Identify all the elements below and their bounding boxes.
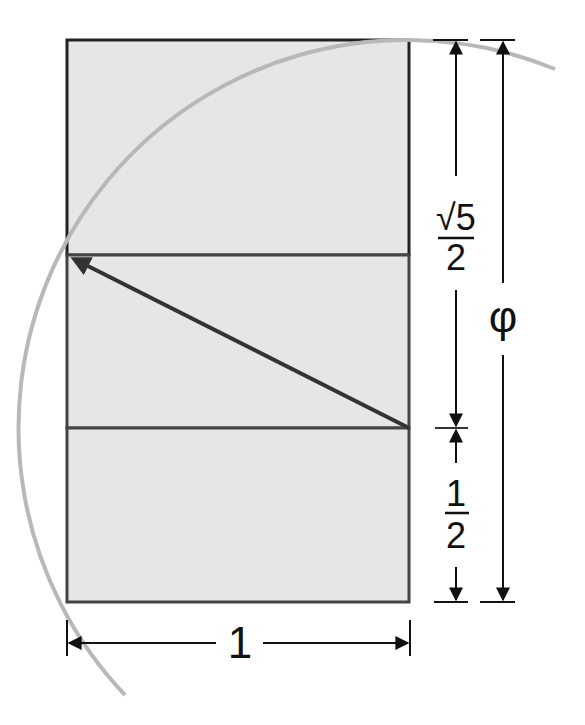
phi-dimension: φ (480, 40, 517, 602)
sqrt5-numerator: √5 (436, 197, 476, 238)
bottom-rectangle (67, 428, 409, 602)
half-dimension: 1 2 (434, 430, 469, 602)
half-numerator: 1 (446, 473, 466, 514)
half-denominator: 2 (446, 515, 466, 556)
sqrt5-denominator: 2 (446, 237, 466, 278)
sqrt5-over-2-dimension: √5 2 (433, 40, 476, 428)
width-label: 1 (228, 618, 252, 667)
phi-label: φ (489, 292, 518, 341)
top-rectangle (67, 40, 409, 255)
golden-ratio-diagram: √5 2 1 2 φ 1 (0, 0, 585, 725)
golden-rectangle (67, 40, 409, 602)
width-dimension: 1 (67, 618, 410, 667)
